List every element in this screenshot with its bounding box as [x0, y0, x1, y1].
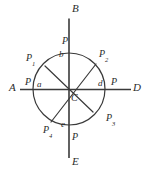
label-center-c: C [71, 93, 78, 103]
label-p-top: P [62, 36, 68, 46]
label-p-left: P [25, 77, 31, 87]
label-p-bottom: P [72, 132, 78, 142]
label-point-p2-sub: 2 [105, 56, 108, 63]
label-axis-d: D [133, 82, 141, 93]
label-point-p1-sub: 1 [32, 60, 35, 67]
label-point-p2: P2 [99, 49, 108, 62]
label-axis-e: E [72, 156, 79, 167]
label-point-p4: P4 [43, 125, 52, 138]
label-p-right: P [111, 77, 117, 87]
label-axis-b: B [72, 3, 79, 14]
label-point-p1: P1 [26, 53, 35, 66]
label-arc-a: a [37, 80, 42, 89]
label-point-p3: P3 [106, 113, 115, 126]
label-arc-b: b [59, 50, 64, 59]
figure-canvas [0, 0, 152, 173]
label-point-p4-sub: 4 [49, 132, 52, 139]
geometry-figure: A D B E C P1 P2 P3 P4 P P P P a b d e [0, 0, 152, 173]
label-arc-e: e [61, 120, 65, 129]
label-point-p3-sub: 3 [112, 120, 115, 127]
label-axis-a: A [9, 82, 16, 93]
label-arc-d: d [98, 79, 103, 88]
